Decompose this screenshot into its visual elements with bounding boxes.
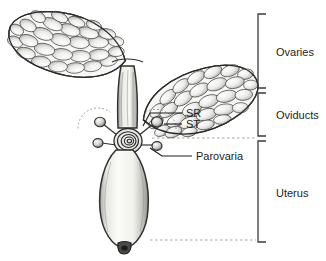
parovarium-upper-left [95,117,117,135]
ovary-left [0,0,133,91]
bracket-label-ovaries: Ovaries [276,46,314,58]
bracket-labels: Ovaries Oviducts Uterus [276,46,319,199]
callout-label-parovaria: Parovaria [196,150,244,162]
bracket-label-oviducts: Oviducts [276,109,319,121]
anatomy-diagram: SR ST Parovaria Ovaries Oviducts Uterus [0,0,326,261]
brackets [258,14,266,242]
ovary-right [134,52,268,149]
bracket-uterus [258,141,266,242]
uterus-body [100,150,149,254]
callout-label-st: ST [186,118,200,130]
parovarium-lower-left [93,139,116,148]
figure-canvas: SR ST Parovaria Ovaries Oviducts Uterus [0,0,326,261]
bracket-label-uterus: Uterus [276,187,309,199]
bracket-ovaries [258,14,266,88]
bracket-oviducts [258,93,266,136]
